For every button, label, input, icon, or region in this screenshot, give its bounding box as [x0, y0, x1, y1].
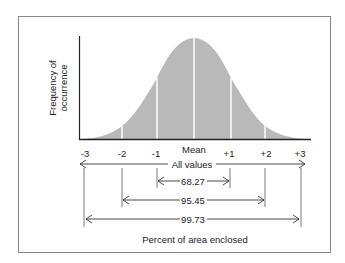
- y-axis-label: Frequency of occurrence: [47, 60, 69, 116]
- svg-text:occurrence: occurrence: [58, 65, 69, 112]
- tick-label-minus1: -1: [152, 148, 160, 159]
- tick-label-minus3: -3: [81, 148, 89, 159]
- tick-label-plus3: +3: [295, 148, 306, 159]
- mean-label: Mean: [182, 144, 206, 155]
- range-68-label: 68.27: [181, 176, 205, 187]
- range-99-label: 99.73: [181, 214, 205, 225]
- caption: Percent of area enclosed: [142, 234, 248, 245]
- all-values-label: All values: [172, 159, 213, 170]
- normal-distribution-diagram: Frequency of occurrence -3 -2 -1 Mean +1…: [0, 0, 345, 263]
- tick-label-plus2: +2: [261, 148, 272, 159]
- tick-label-plus1: +1: [224, 148, 235, 159]
- tick-label-minus2: -2: [118, 148, 126, 159]
- svg-text:Frequency of: Frequency of: [47, 60, 58, 116]
- range-95-label: 95.45: [181, 195, 205, 206]
